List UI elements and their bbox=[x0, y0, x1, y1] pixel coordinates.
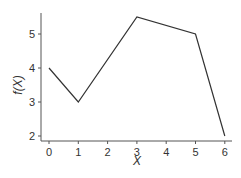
x-tick-label: 1 bbox=[75, 146, 81, 158]
y-tick-label: 3 bbox=[29, 96, 35, 108]
y-tick-label: 5 bbox=[29, 28, 35, 40]
x-tick-label: 6 bbox=[222, 146, 228, 158]
x-tick-label: 0 bbox=[46, 146, 52, 158]
data-line bbox=[49, 17, 225, 136]
y-tick-label: 4 bbox=[29, 62, 35, 74]
x-tick-label: 5 bbox=[192, 146, 198, 158]
x-tick-label: 2 bbox=[105, 146, 111, 158]
axes bbox=[41, 13, 232, 141]
y-axis-label: f(X) bbox=[11, 75, 25, 94]
x-tick-label: 4 bbox=[163, 146, 169, 158]
y-tick-label: 2 bbox=[29, 130, 35, 142]
y-axis-ticks: 2345 bbox=[29, 28, 41, 142]
line-chart: 0123456 2345 X f(X) bbox=[0, 0, 241, 178]
x-axis-label: X bbox=[132, 154, 142, 168]
